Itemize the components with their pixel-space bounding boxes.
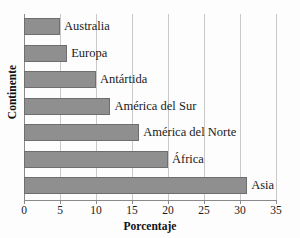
x-tick-label: 15: [117, 204, 147, 216]
bar: [24, 124, 139, 141]
bar: [24, 45, 67, 62]
bar-row: Asia: [24, 173, 276, 200]
bar-category-label: Australia: [64, 15, 110, 37]
x-tick-label: 30: [225, 204, 255, 216]
bar-category-label: África: [172, 148, 204, 170]
x-tick-label: 35: [261, 204, 291, 216]
x-axis-line: [24, 200, 276, 201]
bar: [24, 151, 168, 168]
bar: [24, 71, 96, 88]
bar-row: Antártida: [24, 67, 276, 94]
bar-category-label: Asia: [251, 174, 274, 196]
bar-row: América del Norte: [24, 120, 276, 147]
x-tick-label: 25: [189, 204, 219, 216]
bar-category-label: Antártida: [100, 68, 147, 90]
bar-row: África: [24, 147, 276, 174]
gridline-35: [276, 14, 277, 200]
y-axis-title: Continente: [6, 44, 18, 140]
bar-row: Europa: [24, 41, 276, 68]
bar-category-label: América del Norte: [143, 121, 236, 143]
x-tick-label: 20: [153, 204, 183, 216]
bar: [24, 98, 110, 115]
x-axis-title: Porcentaje: [24, 220, 276, 232]
bar-category-label: América del Sur: [114, 95, 196, 117]
bar-category-label: Europa: [71, 42, 107, 64]
x-tick-label: 0: [9, 204, 39, 216]
bar: [24, 177, 247, 194]
bar-row: Australia: [24, 14, 276, 41]
bar-chart: AustraliaEuropaAntártidaAmérica del SurA…: [0, 0, 300, 238]
plot-area: AustraliaEuropaAntártidaAmérica del SurA…: [24, 14, 276, 200]
bar: [24, 18, 60, 35]
bar-row: América del Sur: [24, 94, 276, 121]
x-tick-label: 5: [45, 204, 75, 216]
x-tick-label: 10: [81, 204, 111, 216]
